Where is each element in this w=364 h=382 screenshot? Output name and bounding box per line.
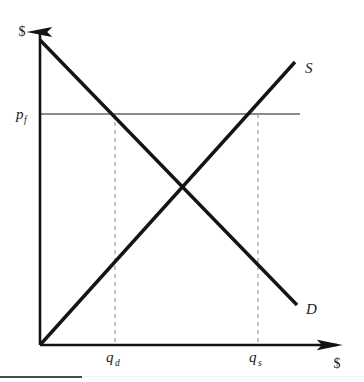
demand-curve-label: D — [305, 301, 317, 317]
qd-label-base: q — [106, 349, 114, 365]
bottom-edge-rule — [0, 376, 82, 378]
qd-label-subscript: d — [115, 358, 120, 368]
supply-demand-chart-svg: $ $ S D p f q d q s — [0, 0, 364, 382]
x-axis-unit-label: $ — [334, 356, 341, 371]
supply-curve-label: S — [305, 60, 313, 76]
supply-demand-figure: $ $ S D p f q d q s — [0, 0, 364, 382]
qs-label-subscript: s — [258, 358, 262, 368]
y-axis-unit-label: $ — [19, 24, 26, 39]
price-floor-label-base: p — [15, 106, 24, 122]
qs-label-base: q — [249, 349, 257, 365]
bottom-edge-rule-light — [82, 376, 364, 377]
